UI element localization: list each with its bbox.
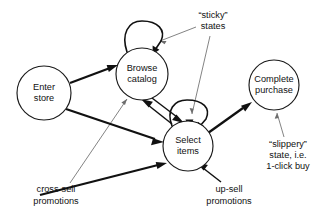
up-sell-promotions-line2: promotions	[206, 196, 252, 206]
annotation-up-sell-promotions: up-sell promotions	[206, 184, 252, 206]
slippery-pointer-complete-purchase-line	[275, 113, 284, 137]
browse-catalog-label-line1: Browse	[127, 63, 158, 73]
state-diagram-canvas: Enter store Browse catalog Select items …	[0, 0, 327, 219]
enter-store-label-line2: store	[34, 93, 54, 103]
edge-select-items-to-browse-catalog	[141, 99, 172, 124]
slippery-state-line3: 1-click buy	[266, 161, 310, 171]
cross-sell-promotions-line1: cross-sell	[37, 184, 76, 194]
sticky-states-line2: states	[201, 21, 226, 31]
up-sell-promotions-line1: up-sell	[215, 184, 242, 194]
edge-enter-store-to-browse-catalog	[70, 65, 118, 83]
slippery-state-line2: state, i.e.	[269, 150, 306, 160]
complete-purchase-label-line2: purchase	[255, 85, 293, 95]
select-items-label-line2: items	[177, 146, 199, 156]
select-items-label-line1: Select	[175, 135, 201, 145]
cross-sell-pointer-browse-catalog-line	[70, 99, 127, 183]
complete-purchase-label-line1: Complete	[254, 74, 293, 84]
node-browse-catalog[interactable]: Browse catalog	[116, 48, 168, 100]
sticky-pointer-browse-loop-line	[160, 27, 196, 44]
node-enter-store[interactable]: Enter store	[17, 66, 71, 120]
annotation-slippery-state: “slippery” state, i.e. 1-click buy	[266, 139, 310, 171]
node-select-items[interactable]: Select items	[163, 121, 213, 171]
edge-select-items-to-complete-purchase	[208, 102, 252, 133]
cross-sell-promotions-line2: promotions	[33, 196, 79, 206]
slippery-state-line1: “slippery”	[269, 139, 307, 149]
edge-enter-store-to-select-items	[66, 109, 164, 145]
sticky-states-line1: “sticky”	[198, 10, 227, 20]
enter-store-label-line1: Enter	[33, 82, 55, 92]
annotation-sticky-states: “sticky” states	[198, 10, 227, 31]
state-diagram: Enter store Browse catalog Select items …	[0, 0, 327, 219]
node-complete-purchase[interactable]: Complete purchase	[249, 60, 299, 110]
browse-catalog-label-line2: catalog	[127, 74, 157, 84]
